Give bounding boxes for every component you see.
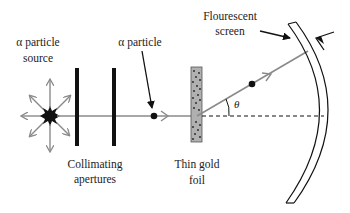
foil-label-line1: Thin gold [174,158,219,171]
observer-eye-icon [316,32,334,50]
foil-label-line2: foil [189,174,205,186]
scattered-particle-dot [249,81,256,88]
rutherford-diagram: θ α particle source α particle Collimati… [0,0,350,213]
screen-label-line2: screen [215,25,245,37]
screen-pointer-arrow [260,31,290,38]
collimating-aperture-1 [75,68,79,146]
fluorescent-screen [286,22,328,203]
angle-theta-label: θ [234,98,240,110]
alpha-particle-dot [151,113,158,120]
apertures-label-line2: apertures [74,173,117,186]
screen-label-line1: Flourescent [203,10,257,22]
particle-label: α particle [118,36,161,49]
alpha-particle-pointer-arrow [142,51,152,108]
source-label-line2: source [23,52,53,64]
angle-arc [226,99,229,116]
collimating-aperture-2 [112,68,116,146]
apertures-label-line1: Collimating [68,158,123,171]
gold-foil [191,67,202,142]
source-label-line1: α particle [16,36,59,49]
